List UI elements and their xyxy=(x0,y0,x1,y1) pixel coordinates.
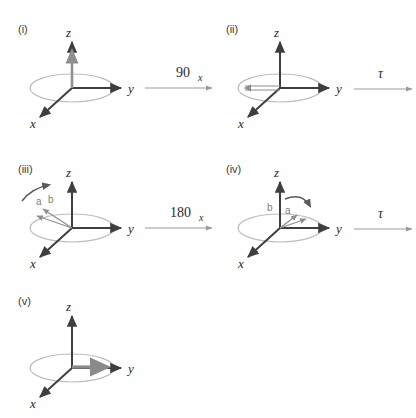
panel-ii-y-label: y xyxy=(334,81,342,96)
op-180x-value: 180 xyxy=(170,205,191,220)
op-tau-2: τ xyxy=(354,206,412,229)
panel-ii: (ii) z y x xyxy=(226,23,342,131)
op-180x: 180 x xyxy=(145,205,212,228)
panel-iv-z-label: z xyxy=(273,165,279,180)
figure-root: (i) z y x 90 x (ii) xyxy=(0,0,416,418)
panel-i-x-label: x xyxy=(29,116,36,131)
figure-svg: (i) z y x 90 x (ii) xyxy=(0,0,416,418)
panel-iii-vector-b xyxy=(43,209,72,228)
panel-v-y-label: y xyxy=(126,361,134,376)
panel-iii-vector-b-label: b xyxy=(48,194,54,205)
panel-iv: (iv) b a z y x xyxy=(226,163,342,271)
panel-iii-x-label: x xyxy=(29,256,36,271)
panel-iv-x-label: x xyxy=(237,256,244,271)
panel-v-x-label: x xyxy=(29,396,36,411)
panel-ii-magnetization-vector xyxy=(244,84,280,92)
panel-iv-vector-a xyxy=(280,219,306,228)
panel-v-label: (v) xyxy=(18,295,31,307)
panel-iii-label: (iii) xyxy=(18,163,33,175)
op-90x: 90 x xyxy=(145,65,212,88)
op-tau-2-value: τ xyxy=(378,206,384,221)
panel-i-label: (i) xyxy=(18,23,28,35)
op-180x-subscript: x xyxy=(198,212,204,223)
panel-iii: (iii) a b z y x xyxy=(18,163,134,271)
panel-iii-z-label: z xyxy=(65,165,71,180)
panel-ii-label: (ii) xyxy=(226,23,238,35)
panel-iii-vector-a-label: a xyxy=(36,196,42,207)
panel-i-z-label: z xyxy=(65,25,71,40)
op-tau-1-value: τ xyxy=(378,66,384,81)
panel-iii-vector-a xyxy=(37,216,72,228)
panel-v: (v) z y x xyxy=(18,295,134,411)
panel-ii-x-label: x xyxy=(237,116,244,131)
panel-v-z-label: z xyxy=(65,299,71,314)
op-90x-value: 90 xyxy=(176,65,190,80)
panel-iv-vector-a-label: a xyxy=(285,205,291,216)
panel-iv-vector-b xyxy=(280,215,297,228)
panel-iv-y-label: y xyxy=(334,221,342,236)
op-tau-1: τ xyxy=(354,66,412,89)
op-90x-subscript: x xyxy=(197,72,203,83)
panel-i-y-label: y xyxy=(126,81,134,96)
panel-iv-vector-b-label: b xyxy=(267,202,273,213)
panel-iii-y-label: y xyxy=(126,221,134,236)
panel-iv-label: (iv) xyxy=(226,163,241,175)
panel-ii-z-label: z xyxy=(273,25,279,40)
panel-i: (i) z y x xyxy=(18,23,134,131)
